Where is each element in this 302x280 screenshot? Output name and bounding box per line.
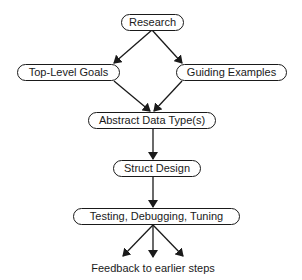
design-process-flowchart: Research Top-Level Goals Guiding Example…	[0, 0, 302, 280]
node-struct-design-label: Struct Design	[124, 162, 190, 174]
node-abstract-data-types: Abstract Data Type(s)	[88, 112, 216, 129]
node-top-level-goals: Top-Level Goals	[17, 64, 120, 81]
node-testing-label: Testing, Debugging, Tuning	[90, 210, 223, 222]
arrow-feedback-left	[123, 225, 153, 256]
connector-arrows	[0, 0, 302, 280]
arrow-feedback-right	[153, 225, 183, 256]
feedback-caption: Feedback to earlier steps	[80, 261, 226, 275]
arrow-goals-to-adt	[114, 81, 150, 111]
node-struct-design: Struct Design	[113, 160, 201, 177]
node-top-level-goals-label: Top-Level Goals	[29, 66, 109, 78]
node-guiding-examples: Guiding Examples	[176, 64, 287, 81]
node-testing-debugging-tuning: Testing, Debugging, Tuning	[73, 208, 240, 225]
node-abstract-data-types-label: Abstract Data Type(s)	[99, 114, 205, 126]
node-research-label: Research	[129, 16, 176, 28]
arrow-research-to-goals	[114, 30, 152, 63]
arrow-examples-to-adt	[154, 81, 182, 111]
node-research: Research	[121, 14, 184, 31]
node-guiding-examples-label: Guiding Examples	[187, 66, 276, 78]
arrow-research-to-examples	[152, 30, 182, 63]
